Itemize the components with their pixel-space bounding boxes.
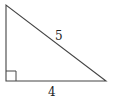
hypotenuse-label: 5 (55, 29, 63, 43)
right-triangle (6, 5, 106, 81)
base-label: 4 (48, 85, 56, 99)
right-angle-marker (6, 71, 16, 81)
triangle-diagram: 5 4 (0, 0, 115, 103)
